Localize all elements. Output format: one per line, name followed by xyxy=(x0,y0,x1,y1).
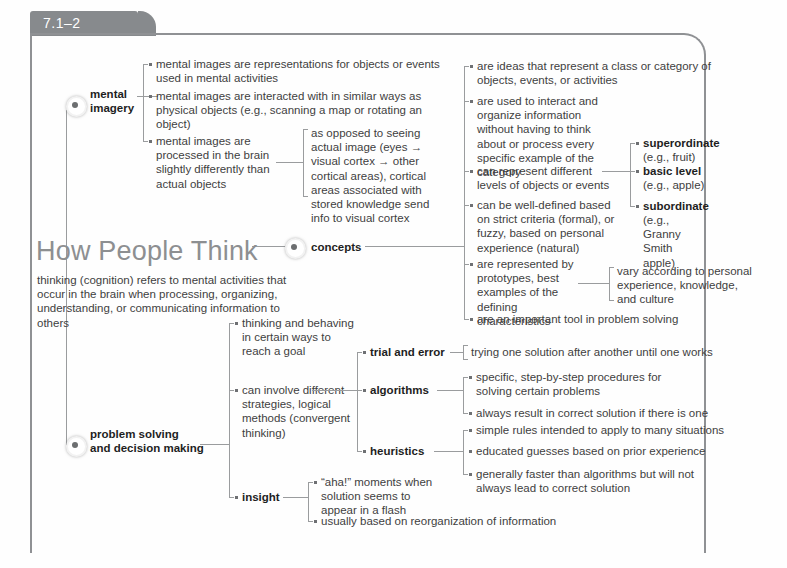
node-label-mental-imagery-line2: imagery xyxy=(90,101,134,115)
leaf-heuristics-detail-2: educated guesses based on prior experien… xyxy=(476,444,756,458)
concepts-tick-1 xyxy=(464,66,469,67)
bullet-superordinate xyxy=(636,142,639,145)
heuristics-bracket-tick-1 xyxy=(463,430,468,431)
leaf-well-defined-fuzzy: can be well-defined based on strict crit… xyxy=(477,198,615,255)
strategies-feed-line xyxy=(312,390,357,391)
bullet-interaction xyxy=(149,95,152,98)
label-heuristics: heuristics xyxy=(370,444,424,458)
detail-bracket-visual-cortex xyxy=(303,129,304,197)
node-label-problem-solving-line1: problem solving xyxy=(90,427,179,441)
concepts-tick-5 xyxy=(464,264,469,265)
leaf-representations: mental images are representations for ob… xyxy=(156,57,456,85)
bullet-insight xyxy=(235,496,238,499)
concepts-tick-3 xyxy=(464,171,469,172)
mental-imagery-bracket xyxy=(143,64,144,142)
leaf-ideas-class-category: are ideas that represent a class or cate… xyxy=(477,59,717,87)
node-label-problem-solving-line2: and decision making xyxy=(90,441,204,455)
levels-tick-3 xyxy=(630,206,635,207)
prototypes-detail-bracket xyxy=(609,267,610,301)
bullet-subordinate xyxy=(636,205,639,208)
leaf-heuristics-detail-1: simple rules intended to apply to many s… xyxy=(476,423,756,437)
bullet-well-defined-fuzzy xyxy=(470,204,473,207)
concepts-tick-4 xyxy=(464,205,469,206)
insight-bracket-tick-2 xyxy=(308,521,313,522)
strategies-bracket xyxy=(357,352,358,452)
hub-concepts[interactable] xyxy=(285,238,306,259)
bullet-insight-detail-2 xyxy=(314,520,317,523)
leaf-heuristics-detail-3: generally faster than algorithms but wil… xyxy=(476,467,696,495)
strategies-tick-3 xyxy=(357,451,362,452)
bullet-processing xyxy=(149,140,152,143)
leaf-trial-detail-1: trying one solution after another until … xyxy=(471,345,751,359)
heuristics-stem xyxy=(434,451,463,452)
trial-bracket-tick-2 xyxy=(463,359,468,360)
bullet-heuristics xyxy=(363,450,366,453)
mental-imagery-tick-2 xyxy=(143,96,148,97)
leaf-important-tool: are an important tool in problem solving xyxy=(477,312,727,326)
levels-feed-line xyxy=(602,171,630,172)
algorithms-bracket xyxy=(463,377,464,414)
detail-bracket-top-tick xyxy=(303,129,308,130)
prototypes-detail-tick-1 xyxy=(609,267,614,268)
leaf-strategies: can involve different strategies, logica… xyxy=(242,383,354,440)
label-insight: insight xyxy=(242,490,280,504)
bullet-algorithms-detail-1 xyxy=(469,376,472,379)
node-label-concepts: concepts xyxy=(311,240,362,254)
problem-solving-tick-2 xyxy=(229,390,234,391)
bullet-ideas-class-category xyxy=(470,65,473,68)
bullet-representations xyxy=(149,63,152,66)
label-algorithms: algorithms xyxy=(370,383,429,397)
algorithms-bracket-tick-1 xyxy=(463,377,468,378)
insight-stem xyxy=(283,497,308,498)
node-label-mental-imagery-line1: mental xyxy=(90,87,127,101)
example-basic-level: (e.g., apple) xyxy=(643,178,763,192)
bullet-insight-detail-1 xyxy=(314,481,317,484)
detail-bracket-bottom-tick xyxy=(303,196,308,197)
bullet-interact-organize xyxy=(470,100,473,103)
leaf-vary-according: vary according to personal experience, k… xyxy=(617,264,753,307)
hub-mental-imagery[interactable] xyxy=(66,96,87,117)
hub-problem-solving[interactable] xyxy=(66,436,87,457)
problem-solving-tick-1 xyxy=(229,323,234,324)
prototypes-detail-line xyxy=(578,283,609,284)
concepts-tick-6 xyxy=(464,319,469,320)
bullet-trial-and-error xyxy=(363,351,366,354)
levels-tick-1 xyxy=(630,143,635,144)
bullet-heuristics-detail-1 xyxy=(469,429,472,432)
label-trial-and-error: trial and error xyxy=(370,345,445,359)
insight-bracket-tick-1 xyxy=(308,482,313,483)
strategies-tick-1 xyxy=(357,352,362,353)
problem-solving-tick-3 xyxy=(229,497,234,498)
heuristics-bracket xyxy=(463,430,464,475)
bullet-heuristics-detail-3 xyxy=(469,473,472,476)
concept-map-page: 7.1–2 How People Think thinking (cogniti… xyxy=(0,0,787,568)
problem-solving-bracket xyxy=(229,323,230,498)
trial-and-error-stem xyxy=(450,352,463,353)
bullet-strategies xyxy=(235,389,238,392)
leaf-algorithms-detail-1: specific, step-by-step procedures for so… xyxy=(476,370,676,398)
leaf-different-levels: can represent different levels of object… xyxy=(477,164,615,192)
label-subordinate: subordinate xyxy=(643,199,709,213)
concepts-stem xyxy=(365,246,400,247)
trial-and-error-bracket xyxy=(463,345,464,360)
leaf-processing: mental images are processed in the brain… xyxy=(156,134,274,191)
bullet-different-levels xyxy=(470,170,473,173)
insight-bracket xyxy=(308,482,309,522)
bullet-algorithms xyxy=(363,389,366,392)
algorithms-bracket-tick-2 xyxy=(463,413,468,414)
levels-bracket xyxy=(630,143,631,206)
example-subordinate: (e.g., Granny Smith apple) xyxy=(643,213,705,270)
bullet-prototypes xyxy=(470,263,473,266)
algorithms-stem xyxy=(437,390,463,391)
prototypes-detail-tick-2 xyxy=(609,300,614,301)
bullet-heuristics-detail-2 xyxy=(469,450,472,453)
concepts-bracket xyxy=(464,66,465,320)
bullet-important-tool xyxy=(470,318,473,321)
bullet-algorithms-detail-2 xyxy=(469,412,472,415)
heuristics-bracket-tick-2 xyxy=(463,474,468,475)
trial-bracket-tick-1 xyxy=(463,345,468,346)
concepts-tick-2 xyxy=(464,101,469,102)
tab-label: 7.1–2 xyxy=(43,15,81,31)
mental-imagery-tick-1 xyxy=(143,64,148,65)
leaf-visual-cortex-path: as opposed to seeing actual image (eyes … xyxy=(311,126,439,225)
